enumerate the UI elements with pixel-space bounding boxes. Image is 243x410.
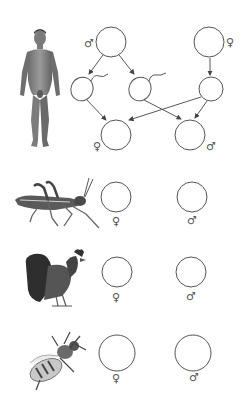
female-symbol: ♀	[112, 372, 120, 385]
parent-female-circle	[194, 27, 224, 57]
sperm-2	[125, 73, 166, 105]
male-symbol: ♂	[206, 140, 216, 153]
female-symbol: ♀	[112, 291, 120, 304]
egg-circle	[199, 77, 223, 101]
offspring-female-circle	[101, 120, 131, 150]
rooster-image	[26, 249, 86, 306]
parent-male-circle	[96, 27, 126, 57]
bee-male-circle	[175, 335, 211, 371]
rooster-female-circle	[102, 257, 132, 287]
male-symbol: ♂	[187, 214, 197, 227]
bee-image	[26, 332, 86, 390]
female-symbol: ♀	[226, 36, 234, 49]
rooster-male-circle	[176, 257, 206, 287]
grasshopper-image	[15, 178, 99, 228]
bee-female-circle	[99, 335, 135, 371]
human-figure	[20, 29, 60, 147]
male-symbol: ♂	[186, 290, 196, 303]
grasshopper-male-circle	[177, 182, 207, 212]
female-symbol: ♀	[112, 215, 120, 228]
male-symbol: ♂	[189, 371, 199, 384]
offspring-male-circle	[175, 120, 205, 150]
diagram-canvas: ♂ ♀ ♀ ♂ ♀ ♂	[0, 0, 243, 410]
female-symbol: ♀	[93, 140, 101, 153]
grasshopper-female-circle	[101, 182, 131, 212]
male-symbol: ♂	[84, 37, 94, 50]
